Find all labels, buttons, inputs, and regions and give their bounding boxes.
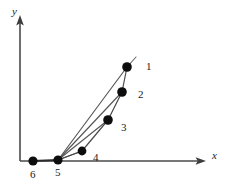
figure-canvas: y x 1 2 3 4 5 6 [0, 0, 227, 191]
data-point-6[interactable] [28, 156, 37, 165]
diagram-svg [0, 0, 227, 191]
data-point-group [28, 62, 131, 165]
fan-line-5-to-2 [58, 92, 122, 160]
y-axis-label: y [12, 6, 17, 17]
point-label-6: 6 [30, 169, 36, 180]
data-point-3[interactable] [103, 115, 113, 125]
point-label-1: 1 [146, 61, 152, 72]
chain-line-3-to-4 [82, 120, 108, 151]
point-label-2: 2 [138, 89, 144, 100]
data-point-1[interactable] [122, 62, 132, 72]
data-point-5[interactable] [53, 155, 62, 164]
point-label-3: 3 [121, 122, 127, 133]
x-axis-label: x [212, 150, 217, 161]
point-label-4: 4 [93, 152, 99, 163]
fan-line-5-to-1 [58, 67, 127, 160]
point-label-5: 5 [55, 167, 61, 178]
data-point-2[interactable] [117, 87, 127, 97]
data-point-4[interactable] [78, 147, 87, 156]
fan-line-group [58, 67, 127, 160]
